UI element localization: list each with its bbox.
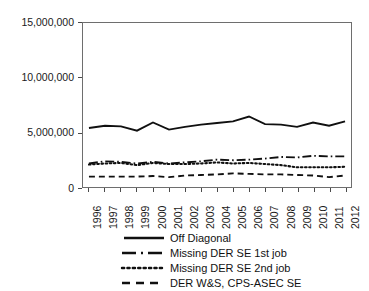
y-tick-mark (78, 22, 82, 23)
x-tick-mark (153, 188, 154, 192)
legend-item[interactable]: Off Diagonal (120, 231, 355, 245)
x-tick-label: 1996 (92, 206, 103, 229)
x-tick-label: 2009 (302, 206, 313, 229)
x-tick-label: 2011 (334, 206, 345, 229)
x-tick-mark (169, 188, 170, 192)
x-tick-label: 2005 (237, 206, 248, 229)
x-tick-label: 2001 (173, 206, 184, 229)
legend-swatch-solid-icon (120, 232, 166, 244)
x-tick-label: 2004 (221, 206, 232, 229)
legend-swatch-dotted-icon (120, 262, 166, 274)
x-tick-label: 2006 (253, 206, 264, 229)
legend-swatch-dashed-icon (120, 277, 166, 289)
x-tick-mark (136, 188, 137, 192)
legend-item[interactable]: Missing DER SE 2nd job (120, 261, 355, 275)
x-tick-mark (265, 188, 266, 192)
x-tick-mark (120, 188, 121, 192)
legend-label: Off Diagonal (170, 232, 231, 244)
x-tick-mark (346, 188, 347, 192)
x-tick-label: 1999 (140, 206, 151, 229)
legend-swatch-dash-dot-icon (120, 247, 166, 259)
legend-label: Missing DER SE 2nd job (170, 262, 290, 274)
x-tick-label: 2000 (157, 206, 168, 229)
x-tick-label: 1997 (108, 206, 119, 229)
legend-label: DER W&S, CPS-ASEC SE (170, 277, 301, 289)
legend-item[interactable]: DER W&S, CPS-ASEC SE (120, 276, 355, 290)
chart-legend: Off DiagonalMissing DER SE 1st jobMissin… (120, 231, 355, 291)
x-tick-mark (298, 188, 299, 192)
x-tick-label: 2012 (350, 206, 361, 229)
legend-label: Missing DER SE 1st job (170, 247, 287, 259)
legend-item[interactable]: Missing DER SE 1st job (120, 246, 355, 260)
x-tick-mark (282, 188, 283, 192)
y-tick-mark (78, 188, 82, 189)
x-tick-mark (88, 188, 89, 192)
x-tick-label: 2008 (286, 206, 297, 229)
x-tick-mark (104, 188, 105, 192)
x-tick-mark (330, 188, 331, 192)
x-tick-label: 1998 (124, 206, 135, 229)
x-tick-mark (201, 188, 202, 192)
y-tick-mark (78, 77, 82, 78)
x-tick-mark (314, 188, 315, 192)
x-tick-mark (249, 188, 250, 192)
x-tick-mark (185, 188, 186, 192)
x-tick-mark (217, 188, 218, 192)
x-tick-label: 2002 (189, 206, 200, 229)
x-tick-label: 2003 (205, 206, 216, 229)
x-tick-label: 2010 (318, 206, 329, 229)
y-tick-mark (78, 133, 82, 134)
x-tick-mark (233, 188, 234, 192)
x-tick-label: 2007 (269, 206, 280, 229)
